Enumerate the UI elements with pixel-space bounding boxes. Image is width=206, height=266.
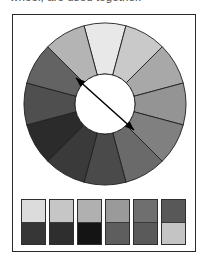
swatch-pair: [133, 199, 158, 245]
caption-strip: wheel, are used together.: [0, 0, 206, 12]
swatch-half-top: [106, 200, 129, 223]
swatch-half-bottom: [162, 223, 185, 245]
swatch-half-top: [22, 200, 45, 223]
swatch-half-top: [134, 200, 157, 223]
swatch-pair: [49, 199, 74, 245]
swatch-half-bottom: [134, 223, 157, 245]
swatch-half-top: [50, 200, 73, 223]
swatch-half-bottom: [78, 223, 101, 245]
caption-text: wheel, are used together.: [10, 0, 142, 4]
swatch-half-top: [78, 200, 101, 223]
swatch-half-bottom: [50, 223, 73, 245]
swatch-half-top: [162, 200, 185, 223]
figure-frame: [12, 14, 196, 252]
swatch-pair: [77, 199, 102, 245]
swatch-pair: [21, 199, 46, 245]
color-wheel-svg: [22, 21, 188, 187]
color-wheel: [22, 21, 188, 187]
swatch-half-bottom: [106, 223, 129, 245]
swatch-pair: [105, 199, 130, 245]
swatch-half-bottom: [22, 223, 45, 245]
swatch-pair: [161, 199, 186, 245]
swatch-row: [21, 199, 189, 245]
